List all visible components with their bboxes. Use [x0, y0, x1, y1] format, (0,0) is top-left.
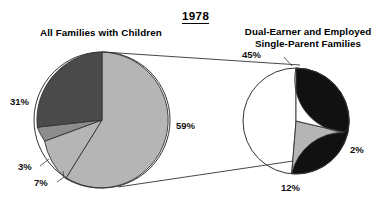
left-pie-chart	[34, 52, 170, 188]
year-title: 1978	[182, 10, 209, 24]
right-pie-label-45: 45%	[242, 49, 261, 60]
pie-chart-figure: 1978 All Families with Children Dual-Ear…	[0, 0, 386, 222]
leader-line-3pct	[40, 159, 49, 166]
right-pie-chart	[243, 68, 349, 174]
right-chart-title-line1: Dual-Earner and Employed	[232, 26, 384, 38]
left-chart-title: All Families with Children	[40, 27, 162, 38]
left-pie-slice-31	[37, 52, 102, 127]
right-chart-title-line2: Single-Parent Families	[232, 38, 384, 50]
right-pie-label-12: 12%	[281, 182, 300, 193]
left-pie-label-59: 59%	[176, 120, 195, 131]
right-pie-label-2: 2%	[350, 144, 364, 155]
right-chart-title: Dual-Earner and Employed Single-Parent F…	[232, 26, 384, 49]
left-pie-label-31: 31%	[10, 96, 29, 107]
left-pie-label-3: 3%	[18, 161, 32, 172]
left-pie-label-7: 7%	[34, 177, 48, 188]
